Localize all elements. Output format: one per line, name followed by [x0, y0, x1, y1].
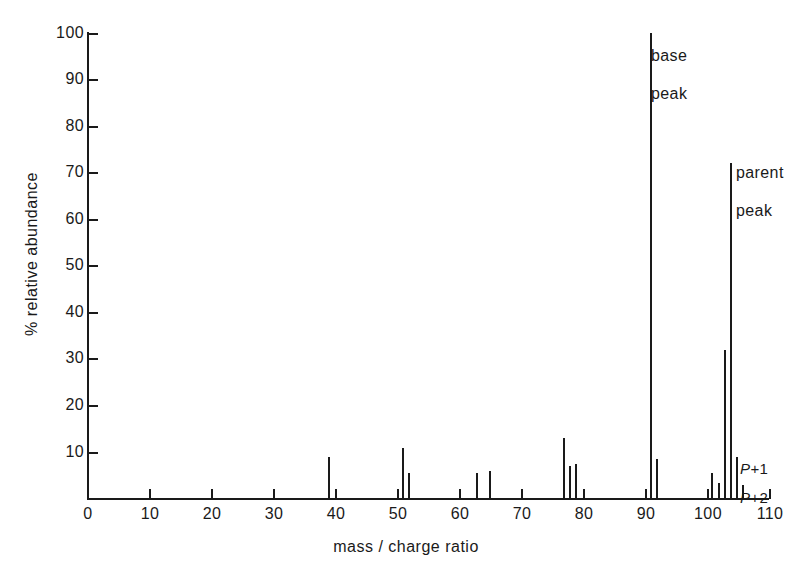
y-tick-label-70: 70 — [0, 164, 84, 180]
x-tick-label-20: 20 — [182, 505, 242, 523]
annotation-p-plus-2-offset: +2 — [750, 489, 768, 506]
x-tick-label-90: 90 — [616, 505, 676, 523]
peak-mz-51 — [402, 448, 404, 499]
y-tick-label-100: 100 — [0, 25, 84, 41]
y-tick-label-10: 10 — [0, 444, 84, 460]
x-tick-label-100: 100 — [678, 505, 738, 523]
x-tick-label-30: 30 — [244, 505, 304, 523]
y-tick-label-40: 40 — [0, 304, 84, 320]
peak-mz-52 — [408, 473, 410, 499]
annotation-p-plus-2: P+2 — [740, 472, 768, 506]
x-axis-title: mass / charge ratio — [0, 538, 812, 556]
y-tick-label-80: 80 — [0, 118, 84, 134]
annotation-base-peak-line2: peak — [651, 84, 687, 103]
y-tick-label-90: 90 — [0, 71, 84, 87]
peak-mz-79 — [575, 464, 577, 499]
x-tick-label-10: 10 — [120, 505, 180, 523]
annotation-base-peak: base peak — [651, 27, 687, 122]
x-tick-label-50: 50 — [368, 505, 428, 523]
annotation-base-peak-line1: base — [651, 46, 687, 65]
x-tick-label-110: 110 — [740, 505, 800, 523]
peak-mz-39 — [328, 457, 330, 499]
x-tick-label-40: 40 — [306, 505, 366, 523]
peak-mz-104 — [730, 163, 732, 499]
y-tick-label-30: 30 — [0, 350, 84, 366]
peak-mz-102 — [718, 483, 720, 499]
mass-spectrum-figure: 100 90 80 70 60 50 40 30 20 10 0 10 20 3… — [0, 0, 812, 582]
x-tick-110 — [769, 489, 771, 499]
peak-mz-105 — [736, 457, 738, 499]
annotation-p-plus-2-symbol: P — [740, 489, 750, 506]
annotation-parent-peak-line1: parent — [736, 163, 784, 182]
peak-mz-78 — [569, 466, 571, 499]
y-tick-label-20: 20 — [0, 397, 84, 413]
peak-mz-65 — [489, 471, 491, 499]
peak-mz-63 — [476, 473, 478, 499]
y-tick-label-60: 60 — [0, 211, 84, 227]
x-tick-label-80: 80 — [554, 505, 614, 523]
y-tick-label-50: 50 — [0, 257, 84, 273]
x-tick-label-60: 60 — [430, 505, 490, 523]
peak-mz-101 — [711, 473, 713, 499]
x-tick-label-70: 70 — [492, 505, 552, 523]
y-axis-title: % relative abundance — [23, 104, 41, 404]
peak-mz-77 — [563, 438, 565, 499]
annotation-parent-peak-line2: peak — [736, 201, 784, 220]
peak-mz-92 — [656, 459, 658, 499]
peak-mz-103 — [724, 350, 726, 499]
x-tick-label-0: 0 — [58, 505, 118, 523]
annotation-parent-peak: parent peak — [736, 144, 784, 239]
